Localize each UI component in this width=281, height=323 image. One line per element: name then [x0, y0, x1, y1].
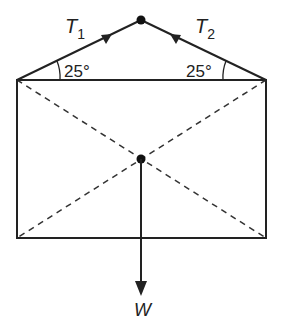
tension-label-t1: T1 [65, 15, 85, 42]
force-diagram: 25° 25° T1 T2 W [0, 0, 281, 323]
tension-label-t2: T2 [195, 15, 215, 42]
angle-label-left: 25° [64, 62, 90, 81]
angle-label-right: 25° [186, 62, 212, 81]
weight-arrowhead [135, 281, 147, 296]
apex-point [137, 16, 146, 25]
weight-label: W [134, 300, 153, 320]
angle-arc-right [223, 61, 226, 80]
angle-arc-left [57, 61, 60, 80]
